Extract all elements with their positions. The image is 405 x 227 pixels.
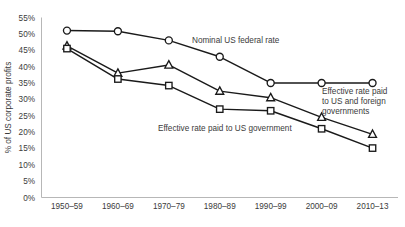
annotation-nominal: Nominal US federal rate	[192, 36, 280, 45]
annotation-nominal-line-0: Nominal US federal rate	[192, 36, 280, 45]
line-chart: 0%5%10%15%20%25%30%35%40%45%50%55%1950–5…	[0, 0, 405, 227]
y-tick-label-11: 55%	[19, 14, 35, 23]
marker-circle-s1-p4	[267, 79, 274, 86]
marker-triangle-s2-p2	[165, 61, 173, 68]
x-tick-label-2: 1970–79	[153, 202, 185, 211]
marker-square-s3-p2	[166, 82, 172, 88]
marker-circle-s1-p2	[165, 37, 172, 44]
marker-triangle-s2-p3	[216, 87, 224, 94]
x-axis: 1950–591960–691970–791980–891990–992000–…	[51, 202, 389, 211]
chart-container: 0%5%10%15%20%25%30%35%40%45%50%55%1950–5…	[0, 0, 405, 227]
marker-square-s3-p0	[64, 45, 70, 51]
x-tick-label-0: 1950–59	[51, 202, 83, 211]
y-axis-title: % of US corporate profits	[4, 62, 13, 153]
marker-circle-s1-p6	[369, 79, 376, 86]
annotation-us-and-foreign-line-0: Effective rate paid	[322, 87, 388, 96]
marker-circle-s1-p1	[114, 28, 121, 35]
annotation-us-and-foreign: Effective rate paidto US and foreigngove…	[322, 87, 388, 116]
x-tick-label-6: 2010–13	[357, 202, 389, 211]
y-tick-label-0: 0%	[23, 194, 35, 203]
y-tick-label-10: 50%	[19, 30, 35, 39]
y-tick-label-7: 35%	[19, 79, 35, 88]
annotation-us-government: Effective rate paid to US government	[158, 124, 292, 133]
y-tick-label-3: 15%	[19, 144, 35, 153]
marker-square-s3-p5	[318, 126, 324, 132]
annotation-us-and-foreign-line-1: to US and foreign	[322, 97, 386, 106]
x-tick-label-5: 2000–09	[306, 202, 338, 211]
x-tick-label-4: 1990–99	[255, 202, 287, 211]
y-tick-label-6: 30%	[19, 95, 35, 104]
marker-square-s3-p6	[369, 145, 375, 151]
marker-circle-s1-p0	[63, 27, 70, 34]
y-tick-label-4: 20%	[19, 128, 35, 137]
marker-square-s3-p4	[267, 108, 273, 114]
y-tick-label-5: 25%	[19, 112, 35, 121]
annotation-us-and-foreign-line-2: governments	[322, 107, 369, 116]
y-tick-label-8: 40%	[19, 63, 35, 72]
marker-circle-s1-p5	[318, 79, 325, 86]
x-tick-label-1: 1960–69	[102, 202, 134, 211]
marker-square-s3-p3	[217, 106, 223, 112]
y-tick-label-9: 45%	[19, 46, 35, 55]
marker-circle-s1-p3	[216, 53, 223, 60]
x-tick-label-3: 1980–89	[204, 202, 236, 211]
annotation-us-government-line-0: Effective rate paid to US government	[158, 124, 292, 133]
y-axis: 0%5%10%15%20%25%30%35%40%45%50%55%	[19, 14, 35, 203]
y-tick-label-1: 5%	[23, 177, 35, 186]
y-tick-label-2: 10%	[19, 161, 35, 170]
marker-square-s3-p1	[115, 76, 121, 82]
